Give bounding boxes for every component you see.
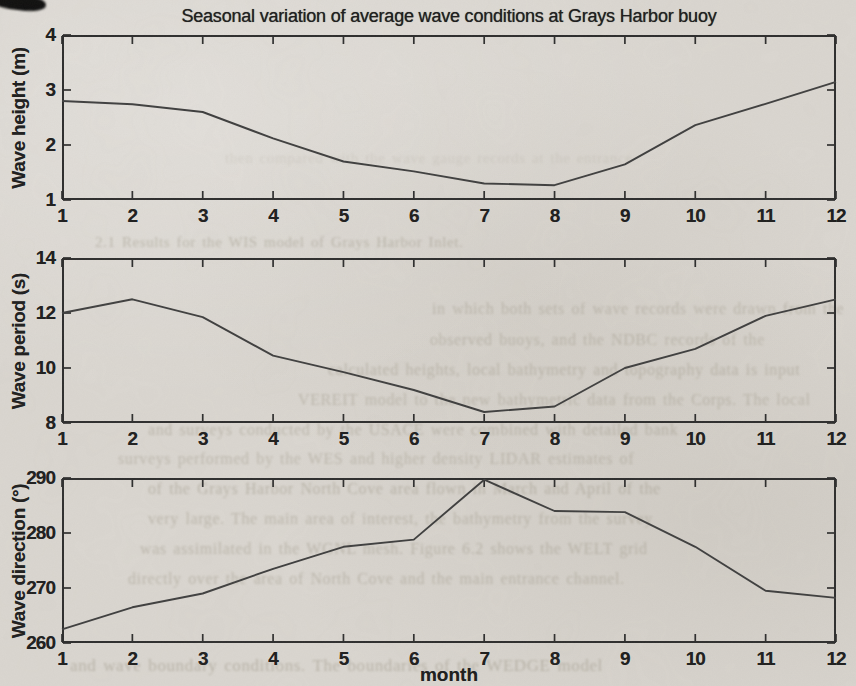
- y-tick-label: 3: [45, 79, 55, 101]
- y-tick-label: 270: [26, 577, 55, 599]
- y-tick-label: 12: [36, 302, 55, 324]
- x-tick-label: 1: [57, 428, 67, 450]
- axis-box: [63, 479, 835, 642]
- x-tick-label: 2: [128, 428, 138, 450]
- x-tick-label: 1: [57, 205, 67, 227]
- axis-box: [63, 259, 835, 422]
- x-tick-label: 5: [339, 428, 349, 450]
- x-tick-label: 12: [826, 428, 845, 450]
- x-axis-label-month: month: [62, 664, 836, 686]
- x-tick-label: 3: [198, 428, 208, 450]
- chart-wave-period: Wave period (s) 8101214123456789101112: [62, 258, 836, 423]
- y-tick-label: 14: [36, 247, 55, 269]
- x-tick-label: 4: [268, 205, 278, 227]
- x-tick-label: 8: [550, 428, 560, 450]
- y-tick-label: 1: [45, 189, 55, 211]
- x-tick-label: 2: [128, 205, 138, 227]
- chart-wave-height: Wave height (m) 1234123456789101112: [62, 35, 836, 200]
- x-tick-label: 11: [757, 428, 775, 450]
- y-axis-label-wave-period: Wave period (s): [6, 258, 32, 423]
- y-tick-label: 260: [26, 632, 55, 654]
- y-tick-label: 8: [45, 412, 55, 434]
- plot-area-wave-height: [62, 35, 836, 200]
- y-tick-label: 290: [26, 467, 55, 489]
- y-tick-label: 10: [36, 357, 55, 379]
- x-tick-label: 10: [686, 428, 705, 450]
- y-tick-label: 2: [45, 134, 55, 156]
- bleed-through-text: surveys performed by the WES and higher …: [118, 450, 634, 468]
- y-tick-label: 280: [26, 522, 55, 544]
- data-line: [62, 82, 836, 185]
- x-tick-label: 7: [479, 428, 489, 450]
- x-tick-label: 6: [409, 205, 419, 227]
- data-line: [62, 480, 836, 630]
- x-tick-label: 4: [268, 428, 278, 450]
- scanned-figure-page: then compared with the wave gauge record…: [0, 0, 856, 686]
- x-tick-label: 6: [409, 428, 419, 450]
- figure-title: Seasonal variation of average wave condi…: [62, 6, 836, 27]
- x-tick-label: 9: [620, 428, 630, 450]
- y-tick-label: 4: [45, 24, 55, 46]
- x-tick-label: 10: [686, 205, 705, 227]
- x-tick-label: 7: [479, 205, 489, 227]
- plot-area-wave-direction: [62, 478, 836, 643]
- y-axis-label-wave-height: Wave height (m): [6, 35, 32, 200]
- y-axis-label-wave-direction: Wave direction (°): [6, 478, 32, 643]
- x-tick-label: 9: [620, 205, 630, 227]
- x-tick-label: 12: [826, 205, 845, 227]
- data-line: [62, 299, 836, 412]
- plot-area-wave-period: [62, 258, 836, 423]
- chart-wave-direction: Wave direction (°) 260270280290123456789…: [62, 478, 836, 643]
- x-tick-label: 11: [757, 205, 775, 227]
- bleed-through-text: 2.1 Results for the WIS model of Grays H…: [95, 234, 463, 251]
- x-tick-label: 3: [198, 205, 208, 227]
- x-tick-label: 5: [339, 205, 349, 227]
- x-tick-label: 8: [550, 205, 560, 227]
